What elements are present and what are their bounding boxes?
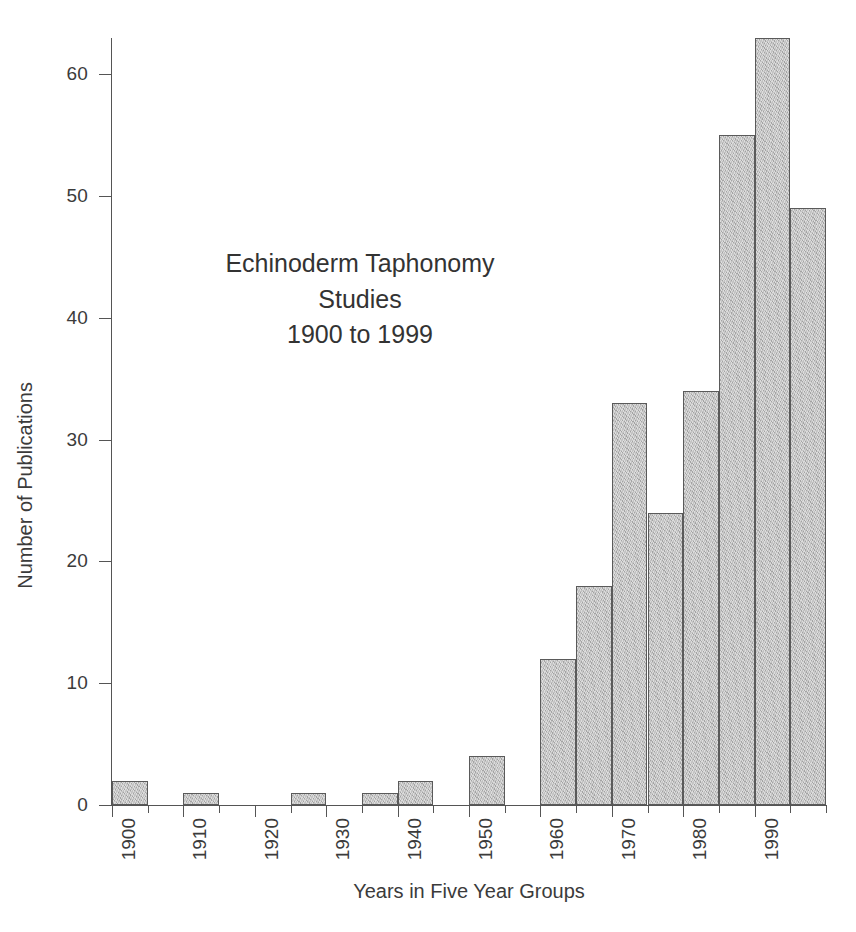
x-tick-mark (183, 805, 184, 817)
bar (576, 586, 612, 805)
x-tick-mark (612, 805, 613, 817)
chart-title-line-1: Echinoderm Taphonomy (156, 246, 564, 282)
y-tick-label: 50 (44, 186, 88, 205)
bar (183, 793, 219, 805)
figure-canvas: 0102030405060 19001910192019301940195019… (0, 0, 856, 932)
bar (112, 781, 148, 805)
y-tick-label: 60 (44, 64, 88, 83)
x-tick-label: 1920 (262, 818, 281, 860)
y-tick-label: 40 (44, 308, 88, 327)
y-tick-label: 10 (44, 673, 88, 692)
x-tick-mark (790, 805, 791, 813)
bar (648, 513, 684, 805)
y-tick-label: 30 (44, 430, 88, 449)
x-tick-mark (469, 805, 470, 817)
x-tick-mark (112, 805, 113, 817)
x-tick-label: 1940 (405, 818, 424, 860)
y-tick-mark (99, 805, 112, 806)
x-tick-label: 1910 (190, 818, 209, 860)
bar (612, 403, 648, 805)
chart-title-line-3: 1900 to 1999 (156, 317, 564, 353)
x-tick-label: 1990 (762, 818, 781, 860)
y-tick-mark (99, 683, 112, 684)
y-tick-mark (99, 440, 112, 441)
bar (790, 208, 826, 805)
x-tick-mark (291, 805, 292, 813)
x-tick-mark (398, 805, 399, 817)
bar (398, 781, 434, 805)
x-tick-mark (826, 805, 827, 813)
x-tick-mark (719, 805, 720, 813)
bar (291, 793, 327, 805)
bar (540, 659, 576, 805)
x-tick-mark (505, 805, 506, 813)
x-tick-label: 1970 (619, 818, 638, 860)
x-tick-label: 1960 (547, 818, 566, 860)
x-tick-label: 1900 (119, 818, 138, 860)
x-tick-mark (255, 805, 256, 817)
x-tick-mark (362, 805, 363, 813)
figure-caption (6, 916, 726, 932)
x-tick-mark (683, 805, 684, 817)
y-tick-label: 0 (44, 795, 88, 814)
y-tick-mark (99, 318, 112, 319)
x-tick-mark (648, 805, 649, 813)
bar (362, 793, 398, 805)
y-tick-mark (99, 561, 112, 562)
bar (755, 38, 791, 805)
x-tick-mark (326, 805, 327, 817)
bar (469, 756, 505, 805)
x-tick-mark (540, 805, 541, 817)
x-tick-label: 1980 (690, 818, 709, 860)
plot-area (112, 38, 826, 805)
y-tick-label: 20 (44, 551, 88, 570)
y-axis-title: Number of Publications (14, 382, 37, 589)
y-tick-mark (99, 74, 112, 75)
x-tick-mark (219, 805, 220, 813)
x-tick-mark (148, 805, 149, 813)
chart-title: Echinoderm Taphonomy Studies 1900 to 199… (156, 246, 564, 353)
x-tick-mark (433, 805, 434, 813)
x-tick-mark (755, 805, 756, 817)
chart-title-line-2: Studies (156, 282, 564, 318)
x-axis-title: Years in Five Year Groups (112, 880, 826, 903)
bar (719, 135, 755, 805)
x-tick-label: 1930 (333, 818, 352, 860)
y-tick-mark (99, 196, 112, 197)
bar (683, 391, 719, 805)
x-tick-label: 1950 (476, 818, 495, 860)
x-tick-mark (576, 805, 577, 813)
